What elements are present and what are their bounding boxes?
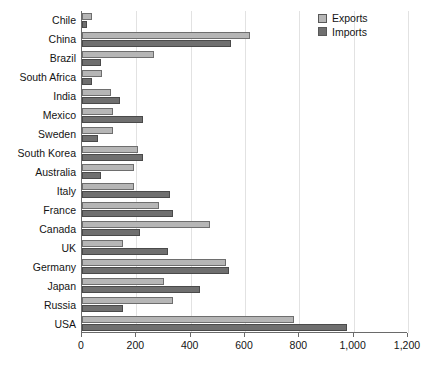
plot-area [81, 11, 407, 333]
bar-imports[interactable] [82, 324, 347, 331]
bar-imports[interactable] [82, 154, 143, 161]
bar-rows [82, 11, 407, 333]
x-tick-label: 800 [290, 339, 308, 351]
bar-group[interactable] [82, 295, 407, 314]
y-axis-label: India [0, 90, 76, 102]
y-axis-label: USA [0, 318, 76, 330]
bar-group[interactable] [82, 257, 407, 276]
bar-exports[interactable] [82, 259, 226, 266]
y-axis-label: China [0, 33, 76, 45]
x-tick-label: 1,200 [394, 339, 420, 351]
bar-exports[interactable] [82, 316, 294, 323]
bar-exports[interactable] [82, 89, 111, 96]
x-tick-mark [81, 333, 82, 337]
bar-exports[interactable] [82, 32, 250, 39]
y-axis-label: France [0, 204, 76, 216]
bar-exports[interactable] [82, 278, 164, 285]
bar-exports[interactable] [82, 183, 134, 190]
y-axis-label: Chile [0, 14, 76, 26]
bar-exports[interactable] [82, 202, 159, 209]
bar-exports[interactable] [82, 297, 173, 304]
bar-imports[interactable] [82, 116, 143, 123]
x-tick-label: 0 [78, 339, 84, 351]
y-axis-label: Sweden [0, 128, 76, 140]
bar-exports[interactable] [82, 164, 134, 171]
bar-imports[interactable] [82, 248, 168, 255]
x-tick-label: 200 [127, 339, 145, 351]
bar-group[interactable] [82, 144, 407, 163]
x-tick-label: 1,000 [340, 339, 366, 351]
bar-group[interactable] [82, 87, 407, 106]
bar-group[interactable] [82, 181, 407, 200]
bar-imports[interactable] [82, 78, 92, 85]
y-axis-label: Russia [0, 299, 76, 311]
bar-exports[interactable] [82, 70, 102, 77]
legend-swatch-icon [318, 27, 327, 36]
y-axis-label: Australia [0, 166, 76, 178]
y-axis-label: South Africa [0, 71, 76, 83]
bar-exports[interactable] [82, 51, 154, 58]
y-axis-label: South Korea [0, 147, 76, 159]
legend-swatch-icon [318, 14, 327, 23]
bar-exports[interactable] [82, 146, 138, 153]
bar-group[interactable] [82, 68, 407, 87]
bar-imports[interactable] [82, 267, 229, 274]
legend-label: Imports [332, 27, 367, 38]
bar-imports[interactable] [82, 229, 140, 236]
x-tick-mark [190, 333, 191, 337]
legend-entry-imports[interactable]: Imports [318, 27, 368, 38]
y-axis-label: Canada [0, 223, 76, 235]
y-axis-label: Brazil [0, 52, 76, 64]
bar-imports[interactable] [82, 172, 101, 179]
y-axis-label: Germany [0, 261, 76, 273]
x-tick-mark [407, 333, 408, 337]
bar-group[interactable] [82, 276, 407, 295]
x-tick-mark [298, 333, 299, 337]
x-tick-mark [244, 333, 245, 337]
bar-exports[interactable] [82, 127, 113, 134]
x-tick-mark [135, 333, 136, 337]
bar-group[interactable] [82, 314, 407, 333]
bar-exports[interactable] [82, 108, 113, 115]
bar-group[interactable] [82, 219, 407, 238]
x-tick-label: 400 [181, 339, 199, 351]
bar-imports[interactable] [82, 21, 87, 28]
y-axis-label: Italy [0, 185, 76, 197]
bar-imports[interactable] [82, 305, 123, 312]
x-tick-label: 600 [235, 339, 253, 351]
legend-label: Exports [332, 13, 368, 24]
bar-group[interactable] [82, 163, 407, 182]
bar-chart: ExportsImports ChileChinaBrazilSouth Afr… [0, 0, 429, 368]
legend-entry-exports[interactable]: Exports [318, 13, 368, 24]
bar-group[interactable] [82, 200, 407, 219]
y-axis-label: UK [0, 242, 76, 254]
y-axis-label: Japan [0, 280, 76, 292]
chart-legend: ExportsImports [318, 13, 368, 37]
bar-imports[interactable] [82, 191, 170, 198]
gridline [408, 11, 409, 333]
bar-exports[interactable] [82, 13, 92, 20]
x-tick-mark [353, 333, 354, 337]
bar-group[interactable] [82, 106, 407, 125]
bar-imports[interactable] [82, 135, 98, 142]
bar-group[interactable] [82, 125, 407, 144]
bar-imports[interactable] [82, 210, 173, 217]
bar-group[interactable] [82, 49, 407, 68]
bar-exports[interactable] [82, 240, 123, 247]
bar-imports[interactable] [82, 40, 231, 47]
y-axis-label: Mexico [0, 109, 76, 121]
bar-group[interactable] [82, 238, 407, 257]
bar-imports[interactable] [82, 286, 200, 293]
bar-exports[interactable] [82, 221, 210, 228]
bar-imports[interactable] [82, 97, 120, 104]
bar-imports[interactable] [82, 59, 101, 66]
